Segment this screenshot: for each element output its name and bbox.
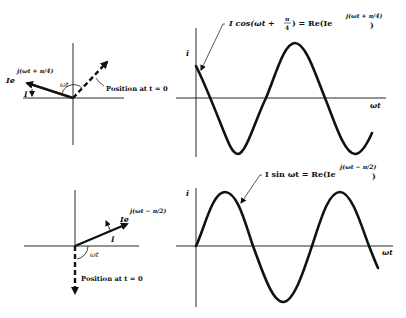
bottom-equation-leader bbox=[241, 175, 262, 203]
top-position-leader bbox=[96, 78, 104, 86]
top-graph-x-label: ωt bbox=[370, 101, 381, 110]
top-equation-right: ) bbox=[370, 20, 374, 30]
bottom-position-label: Position at t = 0 bbox=[81, 275, 143, 283]
bottom-graph-x-label: ωt bbox=[382, 248, 393, 257]
top-equation-frac-num: π bbox=[285, 15, 290, 22]
top-cosine-curve bbox=[196, 43, 372, 154]
bottom-graph-y-label: i bbox=[186, 188, 189, 198]
bottom-equation-left: I sin ωt = Re(Ie bbox=[265, 169, 336, 179]
bottom-phasor-arrow bbox=[75, 224, 127, 246]
bottom-magnitude-label: I bbox=[110, 235, 115, 244]
top-graph-y-label: i bbox=[186, 48, 189, 58]
bottom-phasor-diagram: Ie j(ωt − π/2) I ωt Position at t = 0 bbox=[24, 190, 166, 293]
bottom-phasor-label: Ie bbox=[119, 214, 129, 224]
bottom-equation: I sin ωt = Re(Ie j(ωt − π/2) ) bbox=[265, 163, 376, 181]
top-magnitude-label: I bbox=[23, 90, 28, 99]
bottom-rotation-arrow-icon bbox=[106, 221, 111, 232]
top-equation-left: I cos(ωt + bbox=[228, 18, 275, 28]
top-phasor-exponent: j(ωt + π/4) bbox=[16, 67, 53, 75]
bottom-sine-curve bbox=[196, 192, 378, 302]
bottom-angle-label: ωt bbox=[90, 251, 99, 259]
top-equation: I cos(ωt + π 4 ) = Re(Ie j(ωt + π/4) ) bbox=[228, 12, 382, 31]
bottom-equation-right: ) bbox=[372, 171, 376, 181]
phasor-diagram: Ie j(ωt + π/4) I ωt Position at t = 0 i … bbox=[0, 0, 406, 318]
top-angle-label: ωt bbox=[60, 81, 69, 89]
top-equation-leader bbox=[201, 24, 225, 70]
top-equation-frac-den: 4 bbox=[285, 24, 289, 31]
top-phasor-label: Ie bbox=[5, 75, 15, 85]
top-position-label: Position at t = 0 bbox=[106, 85, 168, 93]
top-waveform-graph: i ωt I cos(ωt + π 4 ) = Re(Ie j(ωt + π/4… bbox=[176, 12, 386, 157]
bottom-phasor-exponent: j(ωt − π/2) bbox=[129, 207, 166, 215]
top-initial-position-arrow bbox=[73, 62, 107, 98]
bottom-equation-exponent: j(ωt − π/2) bbox=[339, 163, 376, 171]
bottom-waveform-graph: i ωt I sin ωt = Re(Ie j(ωt − π/2) ) bbox=[176, 163, 393, 307]
top-phasor-diagram: Ie j(ωt + π/4) I ωt Position at t = 0 bbox=[5, 43, 168, 145]
top-equation-mid: ) = Re(Ie bbox=[292, 18, 332, 28]
bottom-angle-arc bbox=[77, 246, 88, 259]
top-equation-exponent: j(ωt + π/4) bbox=[345, 12, 382, 20]
